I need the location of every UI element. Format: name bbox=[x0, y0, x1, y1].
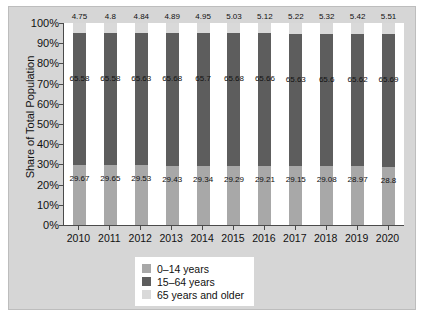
x-axis-ticks: 2010201120122013201420152016201720182019… bbox=[63, 226, 403, 252]
stacked-bar[interactable]: 5.5165.6928.8 bbox=[382, 23, 395, 225]
bar-segment[interactable]: 29.43 bbox=[166, 166, 179, 225]
stacked-bar[interactable]: 5.3265.629.08 bbox=[320, 23, 333, 225]
legend: 0–14 years15–64 years65 years and older bbox=[135, 257, 254, 306]
bar-value-label: 29.53 bbox=[131, 175, 151, 183]
legend-item[interactable]: 15–64 years bbox=[142, 275, 244, 288]
bar-segment[interactable]: 29.34 bbox=[197, 166, 210, 225]
stacked-bar[interactable]: 4.8965.6829.43 bbox=[166, 23, 179, 225]
bar-segment[interactable]: 5.32 bbox=[320, 23, 333, 34]
y-tick-label: 50% bbox=[37, 118, 59, 130]
legend-item[interactable]: 65 years and older bbox=[142, 288, 244, 301]
x-tick-mark bbox=[326, 226, 327, 230]
x-tick-mark bbox=[295, 226, 296, 230]
legend-item[interactable]: 0–14 years bbox=[142, 262, 244, 275]
x-tick-mark bbox=[140, 226, 141, 230]
y-tick-label: 40% bbox=[37, 138, 59, 150]
bar-value-label: 29.21 bbox=[255, 176, 275, 184]
bar-value-label: 29.65 bbox=[100, 175, 120, 183]
bar-column[interactable]: 4.8965.6829.43 bbox=[157, 23, 188, 225]
y-tick-label: 60% bbox=[37, 98, 59, 110]
legend-swatch-icon bbox=[142, 290, 151, 299]
stacked-bar[interactable]: 4.865.5829.65 bbox=[104, 23, 117, 225]
bar-segment[interactable]: 65.6 bbox=[320, 34, 333, 167]
bar-segment[interactable]: 29.15 bbox=[289, 166, 302, 225]
bar-segment[interactable]: 28.8 bbox=[382, 167, 395, 225]
stacked-bar[interactable]: 5.0365.6829.29 bbox=[227, 23, 240, 225]
bar-segment[interactable]: 65.7 bbox=[197, 33, 210, 166]
x-tick: 2012 bbox=[125, 226, 156, 252]
bar-segment[interactable]: 65.69 bbox=[382, 34, 395, 167]
bar-segment[interactable]: 29.29 bbox=[227, 166, 240, 225]
bar-segment[interactable]: 28.97 bbox=[351, 166, 364, 225]
bar-segment[interactable]: 29.67 bbox=[73, 165, 86, 225]
bar-value-label: 65.58 bbox=[100, 75, 120, 83]
x-tick-label: 2010 bbox=[67, 232, 90, 244]
bar-segment[interactable]: 29.53 bbox=[135, 165, 148, 225]
x-tick-label: 2019 bbox=[345, 232, 368, 244]
bar-column[interactable]: 4.865.5829.65 bbox=[95, 23, 126, 225]
y-tick-label: 20% bbox=[37, 179, 59, 191]
bar-segment[interactable]: 29.21 bbox=[258, 166, 271, 225]
stacked-bar[interactable]: 4.7565.5829.67 bbox=[73, 23, 86, 225]
bar-value-label: 29.34 bbox=[193, 176, 213, 184]
bar-segment[interactable]: 29.65 bbox=[104, 165, 117, 225]
bar-segment[interactable]: 65.58 bbox=[73, 33, 86, 165]
bar-column[interactable]: 5.3265.629.08 bbox=[311, 23, 342, 225]
bar-segment[interactable]: 5.03 bbox=[227, 23, 240, 33]
x-tick: 2016 bbox=[248, 226, 279, 252]
y-tick-label: 70% bbox=[37, 78, 59, 90]
bar-segment[interactable]: 65.68 bbox=[227, 33, 240, 166]
bar-column[interactable]: 5.4265.6228.97 bbox=[342, 23, 373, 225]
stacked-bar[interactable]: 5.2265.6329.15 bbox=[289, 23, 302, 225]
bar-segment[interactable]: 5.22 bbox=[289, 23, 302, 34]
bar-segment[interactable]: 65.63 bbox=[289, 34, 302, 167]
stacked-bar[interactable]: 5.4265.6228.97 bbox=[351, 23, 364, 225]
bar-column[interactable]: 4.7565.5829.67 bbox=[64, 23, 95, 225]
bar-column[interactable]: 5.2265.6329.15 bbox=[280, 23, 311, 225]
bar-value-label: 65.6 bbox=[319, 76, 335, 84]
bar-column[interactable]: 5.1265.6629.21 bbox=[249, 23, 280, 225]
bar-segment[interactable]: 65.63 bbox=[135, 33, 148, 166]
x-tick-mark bbox=[202, 226, 203, 230]
bar-segment[interactable]: 4.89 bbox=[166, 23, 179, 33]
bar-group: 4.7565.5829.674.865.5829.654.8465.6329.5… bbox=[64, 23, 404, 225]
x-tick-label: 2014 bbox=[190, 232, 213, 244]
bar-value-label: 5.51 bbox=[381, 13, 397, 21]
bar-column[interactable]: 5.0365.6829.29 bbox=[219, 23, 250, 225]
bar-segment[interactable]: 65.58 bbox=[104, 33, 117, 165]
stacked-bar[interactable]: 4.8465.6329.53 bbox=[135, 23, 148, 225]
bar-segment[interactable]: 65.68 bbox=[166, 33, 179, 166]
bar-segment[interactable]: 65.66 bbox=[258, 33, 271, 166]
bar-value-label: 4.8 bbox=[105, 13, 116, 21]
legend-swatch-icon bbox=[142, 277, 151, 286]
bar-value-label: 29.08 bbox=[317, 176, 337, 184]
y-tick-label: 0% bbox=[43, 219, 59, 231]
bar-segment[interactable]: 4.75 bbox=[73, 23, 86, 33]
bar-segment[interactable]: 4.84 bbox=[135, 23, 148, 33]
bar-value-label: 65.7 bbox=[195, 75, 211, 83]
bar-value-label: 65.58 bbox=[69, 75, 89, 83]
stacked-bar[interactable]: 5.1265.6629.21 bbox=[258, 23, 271, 225]
bar-column[interactable]: 4.8465.6329.53 bbox=[126, 23, 157, 225]
x-tick: 2020 bbox=[372, 226, 403, 252]
bar-segment[interactable]: 4.8 bbox=[104, 23, 117, 33]
bar-segment[interactable]: 5.42 bbox=[351, 23, 364, 34]
x-tick-label: 2020 bbox=[376, 232, 399, 244]
bar-column[interactable]: 4.9565.729.34 bbox=[188, 23, 219, 225]
bar-segment[interactable]: 65.62 bbox=[351, 34, 364, 167]
x-tick: 2019 bbox=[341, 226, 372, 252]
x-tick-label: 2013 bbox=[159, 232, 182, 244]
bar-segment[interactable]: 29.08 bbox=[320, 166, 333, 225]
bar-value-label: 28.97 bbox=[348, 176, 368, 184]
legend-label: 15–64 years bbox=[157, 276, 215, 288]
bar-value-label: 29.29 bbox=[224, 176, 244, 184]
y-tick-label: 80% bbox=[37, 57, 59, 69]
bar-column[interactable]: 5.5165.6928.8 bbox=[373, 23, 404, 225]
stacked-bar[interactable]: 4.9565.729.34 bbox=[197, 23, 210, 225]
bar-segment[interactable]: 4.95 bbox=[197, 23, 210, 33]
x-tick-label: 2012 bbox=[129, 232, 152, 244]
bar-value-label: 65.63 bbox=[131, 75, 151, 83]
bar-value-label: 65.66 bbox=[255, 75, 275, 83]
bar-segment[interactable]: 5.12 bbox=[258, 23, 271, 33]
bar-segment[interactable]: 5.51 bbox=[382, 23, 395, 34]
